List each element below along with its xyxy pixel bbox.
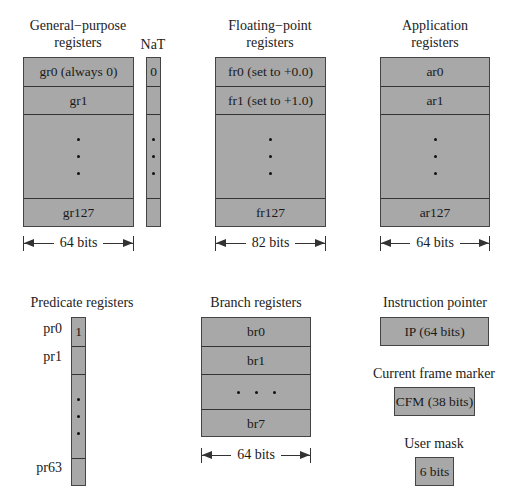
dot-icon [152,138,155,141]
ar-register-file: ar0 ar1 ar127 [380,57,490,227]
gp-width-label: 64 bits [54,235,104,250]
dot-icon [269,172,272,175]
predicate-row-pr1 [72,346,85,374]
fp-row-fr0: fr0 (set to +0.0) [216,58,325,86]
ar-row-ar127: ar127 [381,198,489,227]
branch-row-br0: br0 [202,318,310,346]
user-mask-value: 6 bits [420,464,450,480]
predicate-value: 1 [75,324,82,340]
predicate-row-pr0: 1 [72,318,85,346]
nat-row-1 [147,86,160,114]
gp-row-gr1: gr1 [24,86,133,114]
dot-icon [237,391,240,394]
dot-icon [77,432,80,435]
user-mask-cell: 6 bits [416,458,453,485]
predicate-label-pr63: pr63 [22,460,62,476]
cfm-title: Current frame marker [364,365,504,382]
predicate-row-pr63 [72,458,85,486]
ar-title-line2: registers [370,34,500,51]
branch-registers-title: Branch registers [196,294,316,311]
dot-icon [269,155,272,158]
branch-register-file: br0 br1 br7 [201,317,311,437]
ar-row-label: ar1 [426,93,443,109]
nat-bit-file: 0 [146,57,161,227]
gp-row-label: gr0 (always 0) [40,64,118,80]
branch-ellipsis [202,374,310,409]
nat-row-127 [147,198,160,227]
dot-icon [77,138,80,141]
ar-width-label: 64 bits [410,235,460,250]
dot-icon [152,172,155,175]
fp-register-file: fr0 (set to +0.0) fr1 (set to +1.0) fr12… [215,57,326,227]
ip-value: IP (64 bits) [404,324,464,340]
dot-icon [434,138,437,141]
ip-cell: IP (64 bits) [381,318,488,345]
nat-ellipsis [147,114,160,198]
branch-row-br1: br1 [202,346,310,374]
gp-row-gr127: gr127 [24,198,133,227]
ar-registers-title: Application registers [370,17,500,51]
dot-icon [273,391,276,394]
dot-icon [434,172,437,175]
instruction-pointer-register: IP (64 bits) [380,317,489,346]
cfm-register: CFM (38 bits) [394,387,475,416]
ar-row-label: ar127 [420,205,451,221]
gp-title-line2: registers [10,34,146,51]
dot-icon [77,155,80,158]
cfm-cell: CFM (38 bits) [395,388,474,415]
fp-row-label: fr1 (set to +1.0) [228,93,313,109]
ar-ellipsis [381,114,489,198]
fp-row-fr1: fr1 (set to +1.0) [216,86,325,114]
ar-row-ar1: ar1 [381,86,489,114]
fp-registers-title: Floating−point registers [200,17,340,51]
dot-icon [77,415,80,418]
branch-row-label: br1 [247,353,265,369]
fp-width-label: 82 bits [246,235,296,250]
branch-row-br7: br7 [202,409,310,437]
fp-ellipsis [216,114,325,198]
gp-width-dimension: 64 bits [23,234,134,252]
predicate-label-pr0: pr0 [22,321,62,337]
nat-title: NaT [136,36,170,53]
predicate-label-pr1: pr1 [22,349,62,365]
dot-icon [77,172,80,175]
dot-icon [77,398,80,401]
nat-value: 0 [150,64,157,80]
branch-row-label: br7 [247,416,265,432]
fp-row-label: fr0 (set to +0.0) [228,64,313,80]
user-mask-register: 6 bits [415,457,454,486]
ar-row-label: ar0 [426,64,443,80]
fp-width-dimension: 82 bits [215,234,326,252]
fp-row-label: fr127 [256,205,285,221]
gp-registers-title: General−purpose registers [10,17,146,51]
instruction-pointer-title: Instruction pointer [370,294,500,311]
predicate-ellipsis [72,374,85,458]
dot-icon [269,138,272,141]
dot-icon [152,155,155,158]
cfm-value: CFM (38 bits) [396,394,473,410]
gp-ellipsis [24,114,133,198]
dot-icon [255,391,258,394]
gp-row-gr0: gr0 (always 0) [24,58,133,86]
ar-title-line1: Application [370,17,500,34]
fp-title-line1: Floating−point [200,17,340,34]
ar-row-ar0: ar0 [381,58,489,86]
branch-width-dimension: 64 bits [201,446,311,464]
gp-register-file: gr0 (always 0) gr1 gr127 [23,57,134,227]
nat-row-0: 0 [147,58,160,86]
ar-width-dimension: 64 bits [380,234,490,252]
predicate-registers-title: Predicate registers [22,294,142,311]
fp-row-fr127: fr127 [216,198,325,227]
user-mask-title: User mask [394,435,474,452]
predicate-register-file: 1 [71,317,86,486]
branch-width-label: 64 bits [231,447,281,462]
gp-row-label: gr1 [70,93,88,109]
gp-title-line1: General−purpose [10,17,146,34]
branch-row-label: br0 [247,324,265,340]
gp-row-label: gr127 [63,205,95,221]
fp-title-line2: registers [200,34,340,51]
dot-icon [434,155,437,158]
